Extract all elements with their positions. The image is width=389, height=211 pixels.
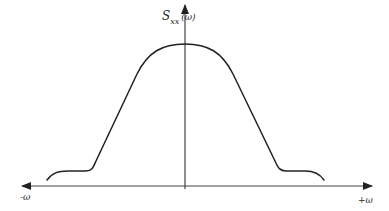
y-axis-label: Sxx(ω) [162,9,196,26]
x-axis-right-label: +ω [358,195,374,205]
x-axis-left-label: -ω [20,192,31,202]
psd-diagram: Sxx(ω) -ω +ω [0,0,389,211]
